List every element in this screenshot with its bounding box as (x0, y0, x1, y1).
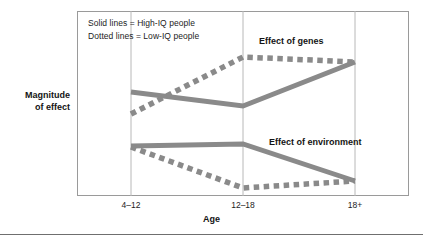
y-axis-title-line2: of effect (0, 101, 70, 113)
y-axis-title: Magnitude of effect (0, 89, 70, 113)
y-axis-title-line1: Magnitude (0, 89, 70, 101)
annotation-effect-of-genes: Effect of genes (259, 36, 324, 46)
x-axis-title: Age (0, 214, 423, 224)
bottom-divider (0, 234, 423, 235)
x-axis-tick-12-18: 12–18 (231, 200, 255, 210)
legend-entry-solid: Solid lines = High-IQ people (88, 17, 199, 30)
x-axis-tick-18plus: 18+ (348, 200, 362, 210)
annotation-effect-of-environment: Effect of environment (269, 137, 362, 147)
legend-entry-dotted: Dotted lines = Low-IQ people (88, 30, 199, 43)
chart-legend: Solid lines = High-IQ people Dotted line… (88, 17, 199, 43)
chart-figure: Solid lines = High-IQ people Dotted line… (0, 0, 423, 243)
x-axis-tick-4-12: 4–12 (122, 200, 141, 210)
